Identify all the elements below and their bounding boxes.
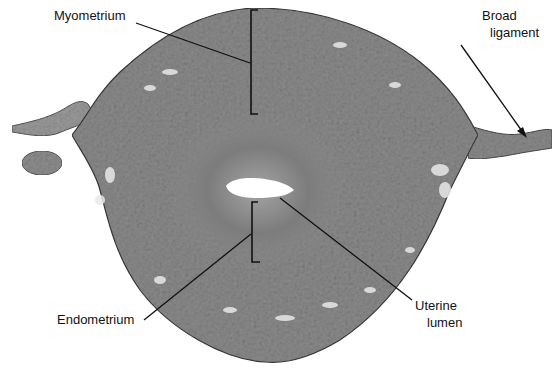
- label-endometrium: Endometrium: [57, 312, 134, 327]
- label-uterine-lumen-line2: lumen: [415, 315, 462, 330]
- label-uterine-lumen-line1: Uterine: [415, 298, 462, 313]
- label-broad-ligament-line2: ligament: [482, 25, 539, 40]
- label-myometrium: Myometrium: [54, 8, 126, 23]
- right-broad-ligament-tissue: [468, 126, 552, 159]
- label-broad-ligament: Broad ligament: [482, 8, 539, 40]
- label-broad-ligament-line1: Broad: [482, 8, 539, 23]
- label-uterine-lumen: Uterine lumen: [415, 298, 462, 330]
- left-tissue-lobe: [22, 151, 62, 175]
